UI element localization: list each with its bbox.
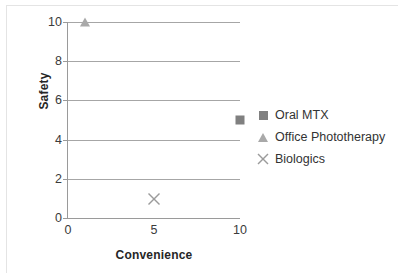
legend-label-oral-mtx: Oral MTX [275,109,328,122]
legend-item-office-phototherapy[interactable]: Office Phototherapy [256,126,398,148]
data-point-oral-mtx[interactable] [236,116,245,125]
legend-label-office-phototherapy: Office Phototherapy [275,131,385,144]
plot-area [68,22,240,218]
figure-border-left [6,5,7,273]
figure-border-top [6,5,398,6]
y-tick-label-4: 4 [42,134,62,147]
chart-legend: Oral MTX Office Phototherapy Biologics [256,104,398,170]
x-axis-tick-labels: 0 5 10 [68,224,240,240]
y-axis-tick-8 [63,61,68,62]
y-tick-label-10: 10 [42,16,62,29]
gridline-y-6 [68,100,240,101]
legend-item-oral-mtx[interactable]: Oral MTX [256,104,398,126]
y-axis-tick-6 [63,100,68,101]
x-tick-label-0: 0 [65,224,72,237]
legend-label-biologics: Biologics [275,153,325,166]
legend-item-biologics[interactable]: Biologics [256,148,398,170]
triangle-marker-icon [256,130,270,144]
y-axis-line [67,22,68,219]
data-point-office-phototherapy[interactable] [80,18,90,27]
gridline-y-10 [68,22,240,23]
gridline-y-8 [68,61,240,62]
x-axis-title: Convenience [68,248,240,262]
y-tick-label-2: 2 [42,173,62,186]
gridline-y-4 [68,140,240,141]
x-axis-line [67,218,240,219]
chart-figure: 10 8 6 4 2 0 0 5 10 Safety Convenience O… [0,0,400,274]
x-tick-label-5: 5 [151,224,158,237]
y-axis-tick-0 [63,218,68,219]
y-axis-tick-4 [63,140,68,141]
y-tick-label-0: 0 [42,212,62,225]
y-axis-title: Safety [37,61,51,121]
y-axis-tick-2 [63,179,68,180]
cross-marker-icon [148,193,161,206]
y-axis-tick-10 [63,22,68,23]
square-marker-icon [256,108,270,122]
cross-marker-icon [256,152,270,166]
gridline-y-2 [68,179,240,180]
data-point-biologics[interactable] [148,192,161,205]
x-tick-label-10: 10 [233,224,247,237]
